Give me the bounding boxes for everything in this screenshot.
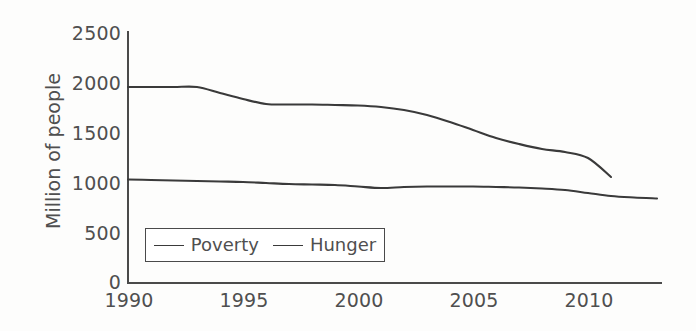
legend-line-icon: [273, 245, 303, 246]
legend-entry-hunger: Hunger: [273, 236, 376, 254]
legend-label-hunger: Hunger: [310, 236, 376, 254]
legend-label-poverty: Poverty: [191, 236, 259, 254]
legend-line-icon: [154, 245, 184, 246]
series-line-poverty: [128, 87, 611, 177]
plot-area: [0, 0, 696, 331]
legend-entry-poverty: Poverty: [154, 236, 259, 254]
chart-figure: Million of people 2500 2000 1500 1000 50…: [0, 0, 696, 331]
series-line-hunger: [128, 180, 657, 199]
chart-legend: Poverty Hunger: [145, 228, 385, 262]
